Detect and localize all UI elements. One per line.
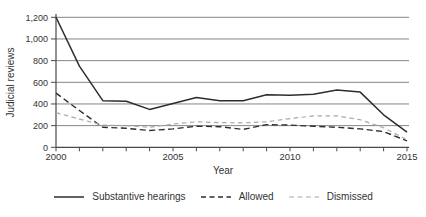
- y-tick-label: 1,200: [25, 13, 48, 23]
- legend-item-substantive-hearings: Substantive hearings: [53, 191, 185, 202]
- legend-substantive-hearings-line-sample: [53, 192, 85, 202]
- x-tick-label: 2005: [162, 151, 183, 162]
- legend-label: Substantive hearings: [92, 191, 185, 202]
- y-tick-label: 400: [33, 99, 48, 109]
- series-line-substantive-hearings: [56, 17, 407, 132]
- legend-item-allowed: Allowed: [200, 191, 274, 202]
- legend-dismissed-line-sample: [288, 192, 320, 202]
- x-axis-title: Year: [45, 165, 401, 176]
- series-line-dismissed: [56, 113, 407, 140]
- x-tick-label: 2015: [396, 151, 417, 162]
- plot-area: 02004006008001,0001,2002000200520102015: [0, 0, 426, 164]
- y-tick-label: 800: [33, 56, 48, 66]
- legend-allowed-line-sample: [200, 192, 232, 202]
- legend-label: Dismissed: [327, 191, 373, 202]
- x-tick-label: 2010: [279, 151, 300, 162]
- legend: Substantive hearingsAllowedDismissed: [0, 189, 426, 204]
- y-tick-label: 200: [33, 121, 48, 131]
- chart-figure: Judicial reviews 02004006008001,0001,200…: [0, 0, 426, 217]
- x-tick-label: 2000: [45, 151, 66, 162]
- y-tick-label: 1,000: [25, 34, 48, 44]
- legend-label: Allowed: [239, 191, 274, 202]
- y-tick-label: 600: [33, 78, 48, 88]
- legend-item-dismissed: Dismissed: [288, 191, 373, 202]
- y-axis-title: Judicial reviews: [4, 37, 17, 129]
